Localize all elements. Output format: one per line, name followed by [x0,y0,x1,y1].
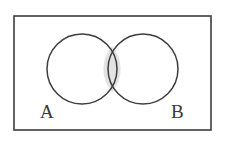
set-label-a: A [40,101,54,122]
venn-diagram-figure: A B [0,0,225,142]
set-label-b: B [171,101,184,122]
venn-diagram-canvas: A B [0,0,225,142]
